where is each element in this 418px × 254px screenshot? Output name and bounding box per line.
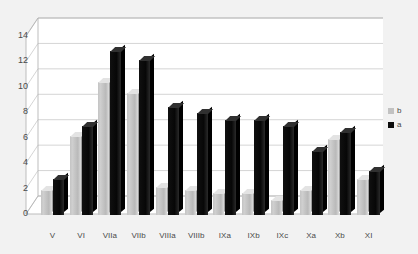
- bar-face: [70, 136, 81, 215]
- x-tick-label: VI: [67, 231, 96, 241]
- legend-swatch-b: [388, 108, 394, 114]
- legend-label: b: [397, 107, 401, 115]
- bar-group: [328, 18, 351, 215]
- bar-a-Xa: [312, 151, 323, 215]
- bar-face: [271, 200, 282, 215]
- y-tick-label: 14: [6, 31, 28, 40]
- x-tick-label: IXc: [268, 231, 297, 241]
- bar-side: [265, 114, 269, 212]
- bar-a-XI: [369, 171, 380, 216]
- bar-side: [208, 107, 212, 212]
- bar-face: [254, 120, 265, 215]
- bar-side: [93, 120, 97, 212]
- bar-face: [41, 190, 52, 215]
- bar-group: [98, 18, 121, 215]
- bar-face: [53, 179, 64, 215]
- y-tick-label: 4: [6, 158, 28, 167]
- bar-b-VIIa: [98, 82, 109, 216]
- bar-group: [213, 18, 236, 215]
- bar-face: [168, 107, 179, 215]
- bar-a-VI: [82, 126, 93, 215]
- bar-a-V: [53, 179, 64, 215]
- bar-group: [242, 18, 265, 215]
- bar-a-IXc: [283, 126, 294, 215]
- x-tick-label: IXb: [239, 231, 268, 241]
- bar-face: [328, 139, 339, 215]
- bar-side: [150, 54, 154, 212]
- bar-face: [213, 193, 224, 215]
- bar-side: [323, 145, 327, 212]
- bar-face: [312, 151, 323, 215]
- bar-face: [127, 93, 138, 215]
- bar-a-VIIb: [139, 60, 150, 215]
- bar-b-VIIIb: [185, 190, 196, 215]
- bar-face: [197, 113, 208, 215]
- y-tick-label: 10: [6, 82, 28, 91]
- x-tick-label: VIIb: [124, 231, 153, 241]
- bar-a-VIIa: [110, 51, 121, 215]
- bar-b-IXb: [242, 193, 253, 215]
- bar-face: [300, 190, 311, 215]
- bar-a-VIIIb: [197, 113, 208, 215]
- bar-face: [139, 60, 150, 215]
- bar-face: [156, 187, 167, 215]
- bar-group: [300, 18, 323, 215]
- y-tick-label: 2: [6, 184, 28, 193]
- y-tick-label: 8: [6, 107, 28, 116]
- bar-face: [110, 51, 121, 215]
- bar-face: [369, 171, 380, 216]
- x-tick-label: IXa: [211, 231, 240, 241]
- bar-group: [41, 18, 64, 215]
- bar-face: [185, 190, 196, 215]
- bar-face: [283, 126, 294, 215]
- bar-b-XI: [357, 179, 368, 215]
- bar-side: [121, 45, 125, 212]
- x-tick-label: VIIa: [96, 231, 125, 241]
- x-tick-label: VIIIa: [153, 231, 182, 241]
- bar-group: [156, 18, 179, 215]
- bar-b-Xa: [300, 190, 311, 215]
- bar-face: [225, 120, 236, 215]
- bar-side: [294, 120, 298, 212]
- chart-legend: ba: [388, 104, 418, 132]
- x-tick-label: V: [38, 231, 67, 241]
- bar-side: [236, 114, 240, 212]
- bar-a-VIIIa: [168, 107, 179, 215]
- y-tick-label: 6: [6, 133, 28, 142]
- bar-a-IXa: [225, 120, 236, 215]
- bar-side: [351, 126, 355, 212]
- legend-item-b[interactable]: b: [388, 104, 418, 118]
- bar-group: [357, 18, 380, 215]
- bar-chart: 14121086420 VVIVIIaVIIbVIIIaVIIIbIXaIXbI…: [0, 0, 418, 254]
- bar-group: [70, 18, 93, 215]
- x-tick-label: XI: [354, 231, 383, 241]
- bar-b-VIIIa: [156, 187, 167, 215]
- bar-face: [340, 132, 351, 215]
- x-tick-label: Xb: [326, 231, 355, 241]
- y-tick-label: 0: [6, 209, 28, 218]
- bar-group: [185, 18, 208, 215]
- bar-b-V: [41, 190, 52, 215]
- bar-b-IXa: [213, 193, 224, 215]
- bar-face: [242, 193, 253, 215]
- legend-label: a: [397, 121, 401, 129]
- bar-face: [98, 82, 109, 216]
- x-tick-label: VIIIb: [182, 231, 211, 241]
- x-axis: VVIVIIaVIIbVIIIaVIIIbIXaIXbIXcXaXbXI: [38, 231, 383, 247]
- bars-layer: [38, 18, 383, 215]
- y-axis: 14121086420: [2, 0, 28, 254]
- bar-b-VIIb: [127, 93, 138, 215]
- bar-side: [380, 164, 384, 212]
- bar-a-Xb: [340, 132, 351, 215]
- x-tick-label: Xa: [297, 231, 326, 241]
- bar-face: [357, 179, 368, 215]
- bar-b-IXc: [271, 200, 282, 215]
- y-tick-label: 12: [6, 56, 28, 65]
- bar-a-IXb: [254, 120, 265, 215]
- legend-item-a[interactable]: a: [388, 118, 418, 132]
- bar-group: [271, 18, 294, 215]
- bar-group: [127, 18, 150, 215]
- bar-side: [179, 101, 183, 212]
- bar-face: [82, 126, 93, 215]
- bar-b-VI: [70, 136, 81, 215]
